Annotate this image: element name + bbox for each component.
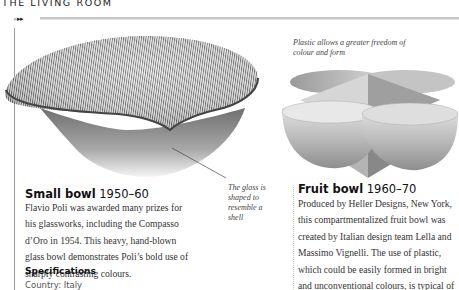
fruit-bowl-years: 1960–70 (367, 182, 417, 196)
specifications-heading: Specifications (25, 266, 96, 276)
plastic-caption: Plastic allows a greater freedom of colo… (293, 38, 423, 58)
header-rule: ▸▸▸ (14, 14, 459, 24)
triangle-arrows-icon: ▸▸▸ (14, 15, 23, 23)
fruit-bowl-image (280, 60, 459, 180)
glass-caption: The glass is shaped to resemble a shell (228, 183, 278, 223)
fruit-bowl-title: Fruit bowl (298, 182, 363, 196)
small-bowl-title: Small bowl (25, 187, 96, 201)
divider-line (40, 17, 459, 20)
section-title: THE LIVING ROOM (2, 0, 113, 8)
small-bowl-heading: Small bowl 1950–60 (25, 187, 149, 201)
column-divider-right (293, 187, 294, 290)
small-bowl-years: 1950–60 (99, 187, 149, 201)
fruit-bowl-description: Produced by Heller Designs, New York, th… (298, 196, 459, 290)
glass-bowl-image (0, 30, 262, 180)
fruit-bowl-heading: Fruit bowl 1960–70 (298, 182, 416, 196)
spec-country: Country: Italy (25, 280, 82, 290)
